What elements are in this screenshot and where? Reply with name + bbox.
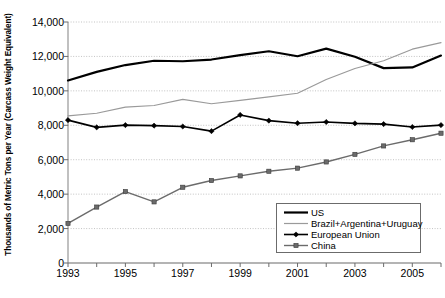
- series-line: [68, 49, 441, 81]
- legend-item-us[interactable]: US: [283, 207, 420, 218]
- legend-item-brazil-argentina-uruguay[interactable]: Brazil+Argentina+Uruguay: [283, 218, 420, 229]
- y-axis-tick-labels: 02,0004,0006,0008,00010,00012,00014,000: [16, 0, 64, 298]
- x-axis-tick-label: 2003: [343, 267, 366, 279]
- chart-legend: USBrazil+Argentina+UruguayEuropean Union…: [276, 203, 421, 253]
- data-point-marker: [123, 123, 128, 128]
- x-axis-tick-label: 1999: [228, 267, 251, 279]
- data-point-marker: [293, 232, 298, 237]
- data-point-marker: [324, 119, 329, 124]
- legend-swatch-icon: [283, 229, 309, 240]
- legend-swatch-icon: [283, 240, 309, 251]
- data-point-marker: [180, 124, 185, 129]
- x-axis-tick-label: 2001: [286, 267, 309, 279]
- data-point-marker: [267, 169, 271, 173]
- data-point-marker: [381, 121, 386, 126]
- legend-swatch-icon: [283, 207, 309, 218]
- y-axis-tick-label: 2,000: [18, 223, 64, 235]
- data-point-marker: [151, 123, 156, 128]
- data-point-marker: [66, 221, 70, 225]
- data-point-marker: [65, 118, 70, 123]
- legend-item-european-union[interactable]: European Union: [283, 229, 420, 240]
- data-point-marker: [353, 152, 357, 156]
- legend-item-china[interactable]: China: [283, 240, 420, 251]
- y-axis-tick-label: 8,000: [18, 119, 64, 131]
- legend-label: US: [311, 207, 324, 218]
- data-point-marker: [209, 178, 213, 182]
- data-point-marker: [410, 138, 414, 142]
- y-axis-tick-label: 12,000: [18, 50, 64, 62]
- data-point-marker: [439, 131, 443, 135]
- legend-label: European Union: [311, 229, 380, 240]
- y-axis-tick-label: 14,000: [18, 16, 64, 28]
- x-axis-tick-label: 2005: [401, 267, 424, 279]
- data-point-marker: [123, 189, 127, 193]
- x-axis-tick-label: 1995: [114, 267, 137, 279]
- legend-swatch-icon: [283, 218, 309, 229]
- data-point-marker: [181, 185, 185, 189]
- data-point-marker: [382, 144, 386, 148]
- data-point-marker: [266, 118, 271, 123]
- legend-label: Brazil+Argentina+Uruguay: [311, 218, 422, 229]
- data-point-marker: [324, 160, 328, 164]
- x-axis-tick-label: 1997: [171, 267, 194, 279]
- x-axis-tick-label: 1993: [56, 267, 79, 279]
- data-point-marker: [438, 123, 443, 128]
- data-point-marker: [152, 200, 156, 204]
- y-axis-title-text: Thousands of Metric Tons per Year (Carca…: [4, 13, 13, 255]
- data-point-marker: [238, 174, 242, 178]
- series-us: [68, 49, 441, 81]
- y-axis-tick-label: 10,000: [18, 85, 64, 97]
- data-point-marker: [295, 121, 300, 126]
- legend-label: China: [311, 240, 336, 251]
- data-point-marker: [95, 205, 99, 209]
- data-point-marker: [294, 243, 298, 247]
- y-axis-tick-label: 4,000: [18, 188, 64, 200]
- y-axis-tick-label: 6,000: [18, 154, 64, 166]
- series-european-union: [65, 112, 443, 133]
- data-point-marker: [295, 166, 299, 170]
- line-chart: Thousands of Metric Tons per Year (Carca…: [0, 0, 445, 298]
- y-axis-title: Thousands of Metric Tons per Year (Carca…: [0, 0, 16, 268]
